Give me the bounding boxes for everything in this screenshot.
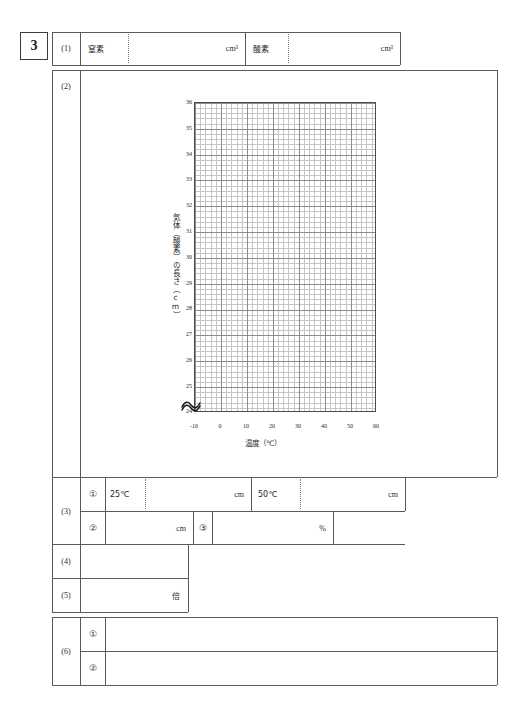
axis-break-icon — [180, 398, 202, 412]
y-tick-35: 35 — [176, 125, 192, 131]
sub-marker-6-2: ② — [80, 660, 105, 676]
rule-r1-right — [400, 32, 401, 65]
graph-plot-area[interactable] — [194, 102, 376, 412]
answer-field-50c[interactable] — [301, 479, 404, 509]
y-tick-29: 29 — [176, 280, 192, 286]
sub-marker-6-1: ① — [80, 626, 105, 642]
answer-field-5[interactable] — [81, 579, 159, 611]
rule-r5-bottom — [52, 612, 188, 613]
row-label-6: (6) — [52, 643, 80, 659]
rule-r2-top — [52, 70, 497, 71]
y-tick-33: 33 — [176, 176, 192, 182]
question-number-box: 3 — [20, 32, 48, 60]
rule-r1-top — [52, 32, 400, 33]
row-label-4: (4) — [52, 553, 80, 569]
rule-r5-right — [188, 578, 189, 612]
y-tick-25: 25 — [176, 383, 192, 389]
row-label-5: (5) — [52, 587, 80, 603]
y-tick-27: 27 — [176, 331, 192, 337]
rule-r1-lblsep — [80, 32, 81, 65]
x-tick-40: 40 — [314, 423, 334, 429]
rule-r2-lblsep — [80, 70, 81, 477]
answer-field-length[interactable] — [106, 512, 192, 543]
x-tick-0: 0 — [210, 423, 230, 429]
y-tick-28: 28 — [176, 305, 192, 311]
y-tick-36: 36 — [176, 99, 192, 105]
label-oxygen: 酸素 — [253, 40, 293, 56]
row-label-1: (1) — [52, 40, 80, 56]
rule-r4-right — [188, 544, 189, 578]
label-25c: 25℃ — [110, 486, 150, 502]
x-tick-10: 10 — [236, 423, 256, 429]
x-tick-20: 20 — [262, 423, 282, 429]
rule-r6-bottom — [52, 685, 497, 686]
rule-r2-right — [497, 70, 498, 477]
x-tick-neg10: -10 — [184, 423, 204, 429]
answer-sheet: 3 (1) (2) (3) (4) (5) (6) — [0, 0, 523, 717]
answer-field-6-1[interactable] — [106, 618, 496, 650]
rule-r1-mid — [245, 32, 246, 65]
x-tick-30: 30 — [288, 423, 308, 429]
rule-r6-right — [497, 617, 498, 685]
graph-x-axis-label: 温度（℃） — [245, 437, 281, 448]
sub-marker-3-1: ① — [80, 486, 105, 502]
rule-r1-bottom — [52, 65, 400, 66]
answer-field-nitrogen[interactable] — [129, 34, 243, 63]
label-nitrogen: 窒素 — [88, 40, 128, 56]
answer-field-25c[interactable] — [146, 479, 250, 509]
rule-r3b-right — [333, 511, 334, 544]
row-label-2: (2) — [52, 78, 80, 94]
answer-field-6-2[interactable] — [106, 652, 496, 684]
answer-field-percent[interactable] — [213, 512, 332, 543]
y-tick-32: 32 — [176, 202, 192, 208]
rule-r3a-mid — [251, 477, 252, 511]
y-tick-34: 34 — [176, 151, 192, 157]
y-tick-31: 31 — [176, 228, 192, 234]
label-50c: 50℃ — [258, 486, 298, 502]
sub-marker-3-3: ③ — [194, 520, 212, 536]
y-tick-30: 30 — [176, 254, 192, 260]
y-tick-26: 26 — [176, 357, 192, 363]
x-tick-50: 50 — [340, 423, 360, 429]
rule-r3a-right — [405, 477, 406, 511]
row-label-3: (3) — [52, 503, 80, 519]
answer-field-4[interactable] — [81, 545, 187, 577]
sub-marker-3-2: ② — [80, 520, 105, 536]
x-tick-60: 60 — [366, 423, 386, 429]
answer-field-oxygen[interactable] — [289, 34, 398, 63]
rule-r2-left — [52, 70, 53, 477]
